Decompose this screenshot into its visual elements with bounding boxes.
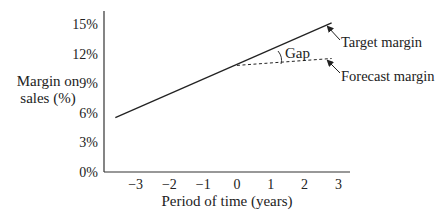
x-tick-label: 0	[234, 177, 241, 192]
y-tick-label: 0%	[79, 165, 98, 180]
y-tick-label: 15%	[72, 17, 98, 32]
target-margin-line	[115, 23, 331, 118]
x-tick-label: 3	[335, 177, 342, 192]
forecast-arrow	[328, 61, 340, 73]
x-tick-labels: −3−2−10123	[128, 177, 342, 192]
x-tick-label: −3	[128, 177, 143, 192]
target-margin-label: Target margin	[341, 34, 423, 50]
y-tick-label: 12%	[72, 47, 98, 62]
gap-arc	[278, 51, 282, 64]
gap-label: Gap	[285, 45, 310, 61]
x-axis-label: Period of time (years)	[161, 193, 292, 210]
target-arrow	[328, 27, 340, 40]
y-tick-labels: 0%3%6%9%12%15%	[72, 17, 98, 180]
y-tick-label: 6%	[79, 106, 98, 121]
y-tick-label: 3%	[79, 135, 98, 150]
forecast-margin-label: Forecast margin	[341, 68, 435, 84]
x-tick-label: −1	[196, 177, 211, 192]
y-tick-label: 9%	[79, 76, 98, 91]
x-tick-label: 1	[267, 177, 274, 192]
x-tick-label: −2	[162, 177, 177, 192]
series-lines	[115, 23, 331, 118]
x-tick-label: 2	[301, 177, 308, 192]
y-axis-label-line1: Margin on	[17, 73, 80, 89]
margin-gap-chart: 0%3%6%9%12%15% −3−2−10123 Margin on sale…	[0, 0, 435, 216]
y-axis-label-line2: sales (%)	[20, 90, 75, 107]
